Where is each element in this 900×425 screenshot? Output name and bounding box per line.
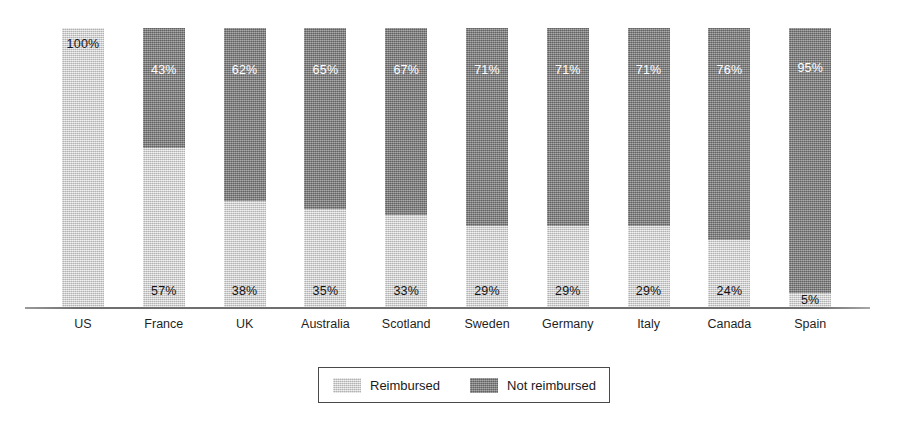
bar-segment-reimbursed: 24% xyxy=(708,240,750,307)
bar-value-label: 67% xyxy=(385,64,427,77)
category-label-italy: Italy xyxy=(604,316,694,332)
legend-label-not-reimbursed: Not reimbursed xyxy=(507,379,596,392)
bar-segment-reimbursed: 35% xyxy=(304,209,346,307)
bar-group: 67%33% xyxy=(385,28,427,307)
bar-value-label: 100% xyxy=(62,38,104,51)
bar-segment-reimbursed: 38% xyxy=(224,201,266,307)
category-axis-line xyxy=(25,307,870,309)
category-label-france: France xyxy=(119,316,209,332)
bar-segment-reimbursed: 29% xyxy=(547,226,589,307)
bar-segment-not-reimbursed: 71% xyxy=(466,28,508,226)
light-gray-swatch xyxy=(333,378,361,393)
legend: Reimbursed Not reimbursed xyxy=(318,367,610,403)
legend-entry-reimbursed[interactable]: Reimbursed xyxy=(333,378,440,393)
bar-segment-reimbursed: 57% xyxy=(143,148,185,307)
bar-group: 71%29% xyxy=(628,28,670,307)
bar-segment-not-reimbursed: 43% xyxy=(143,28,185,148)
bar-value-label: 38% xyxy=(224,285,266,298)
bar-segment-not-reimbursed: 62% xyxy=(224,28,266,201)
bar-segment-not-reimbursed: 65% xyxy=(304,28,346,209)
bar-segment-not-reimbursed: 76% xyxy=(708,28,750,240)
bar-group: 95%5% xyxy=(789,28,831,307)
bar-group: 43%57% xyxy=(143,28,185,307)
bar-group: 71%29% xyxy=(466,28,508,307)
bar-group: 76%24% xyxy=(708,28,750,307)
bar-value-label: 43% xyxy=(143,64,185,77)
bar-value-label: 71% xyxy=(547,64,589,77)
category-label-uk: UK xyxy=(200,316,290,332)
bar-value-label: 71% xyxy=(628,64,670,77)
bar-value-label: 5% xyxy=(789,294,831,307)
category-label-spain: Spain xyxy=(765,316,855,332)
bar-segment-not-reimbursed: 71% xyxy=(547,28,589,226)
bar-segment-not-reimbursed: 67% xyxy=(385,28,427,215)
bar-segment-reimbursed: 33% xyxy=(385,215,427,307)
bar-group: 100% xyxy=(62,28,104,307)
bar-segment-not-reimbursed: 71% xyxy=(628,28,670,226)
category-label-canada: Canada xyxy=(684,316,774,332)
bar-value-label: 29% xyxy=(628,285,670,298)
bar-group: 65%35% xyxy=(304,28,346,307)
bar-segment-reimbursed: 5% xyxy=(789,293,831,307)
category-label-germany: Germany xyxy=(523,316,613,332)
bar-value-label: 24% xyxy=(708,285,750,298)
bar-segment-not-reimbursed: 95% xyxy=(789,28,831,293)
bar-value-label: 29% xyxy=(547,285,589,298)
bar-segment-reimbursed: 29% xyxy=(466,226,508,307)
plot-area: 100%43%57%62%38%65%35%67%33%71%29%71%29%… xyxy=(25,0,875,308)
category-label-us: US xyxy=(38,316,128,332)
category-label-scotland: Scotland xyxy=(361,316,451,332)
bar-value-label: 35% xyxy=(304,285,346,298)
category-label-australia: Australia xyxy=(280,316,370,332)
bar-value-label: 57% xyxy=(143,285,185,298)
bar-group: 62%38% xyxy=(224,28,266,307)
stacked-bar-chart: 100%43%57%62%38%65%35%67%33%71%29%71%29%… xyxy=(0,0,900,425)
category-label-sweden: Sweden xyxy=(442,316,532,332)
bar-value-label: 71% xyxy=(466,64,508,77)
bar-value-label: 33% xyxy=(385,285,427,298)
dark-gray-swatch xyxy=(470,378,498,393)
bar-group: 71%29% xyxy=(547,28,589,307)
bar-value-label: 65% xyxy=(304,64,346,77)
bar-value-label: 95% xyxy=(789,62,831,75)
bar-segment-reimbursed: 100% xyxy=(62,28,104,307)
category-axis-labels: USFranceUKAustraliaScotlandSwedenGermany… xyxy=(25,316,875,336)
legend-entry-not-reimbursed[interactable]: Not reimbursed xyxy=(470,378,596,393)
bar-value-label: 29% xyxy=(466,285,508,298)
bar-segment-reimbursed: 29% xyxy=(628,226,670,307)
bar-value-label: 76% xyxy=(708,64,750,77)
legend-label-reimbursed: Reimbursed xyxy=(370,379,440,392)
bar-value-label: 62% xyxy=(224,64,266,77)
